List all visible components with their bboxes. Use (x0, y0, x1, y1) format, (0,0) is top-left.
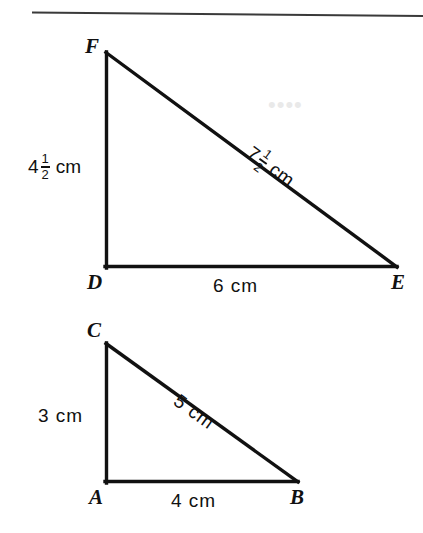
mixed-number-four-and-half: 4 1 2 cm (28, 152, 81, 182)
vertex-label-b: B (290, 487, 304, 508)
vertex-label-d: D (87, 272, 102, 293)
whole-part: 4 (28, 157, 39, 176)
fraction-one-half: 1 2 (41, 152, 50, 182)
top-horizontal-rule (32, 13, 423, 17)
triangles-diagram (0, 0, 423, 533)
vertex-label-f: F (85, 36, 99, 57)
fraction-denominator: 2 (41, 168, 50, 182)
vertex-label-e: E (391, 272, 405, 293)
side-label-df: 4 1 2 cm (28, 152, 81, 182)
vertex-label-c: C (87, 320, 101, 341)
unit-label: cm (56, 157, 81, 176)
side-label-ac: 3 cm (38, 406, 83, 425)
vertex-label-a: A (89, 487, 103, 508)
fraction-numerator: 1 (41, 152, 50, 166)
figure-root: •••• F D E C A B 4 1 2 cm 6 cm 7 1 2 cm (0, 0, 423, 533)
side-label-ab: 4 cm (171, 491, 216, 510)
side-label-de: 6 cm (213, 276, 258, 295)
